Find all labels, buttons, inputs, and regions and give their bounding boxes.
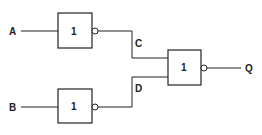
gate-3-symbol: 1	[181, 62, 187, 73]
gate-1: 1	[58, 13, 98, 48]
gate-1-inversion-bubble	[92, 28, 98, 34]
gate-3-inversion-bubble	[201, 65, 207, 71]
input-label-a: A	[9, 26, 16, 37]
wire-label-d: D	[135, 83, 142, 94]
gate-1-symbol: 1	[71, 26, 77, 37]
gate-2-symbol: 1	[71, 101, 77, 112]
gate-2: 1	[58, 89, 98, 123]
wire-label-c: C	[135, 38, 142, 49]
gate-3: 1	[168, 50, 207, 85]
logic-circuit-diagram: A 1 C B 1 D 1 Q	[0, 0, 262, 135]
wire-c	[98, 31, 168, 58]
output-label-q: Q	[245, 63, 253, 74]
gate-2-inversion-bubble	[92, 104, 98, 110]
wire-d	[98, 77, 168, 107]
input-label-b: B	[9, 102, 16, 113]
